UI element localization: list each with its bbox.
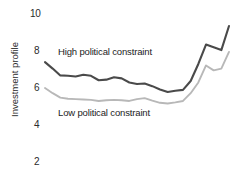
- investment-profile-line-chart: Investment profile 10 8 6 4 2 High polit…: [0, 0, 239, 175]
- annotation-low-political-constraint: Low political constraint: [58, 107, 150, 118]
- annotation-high-political-constraint: High political constraint: [58, 46, 152, 57]
- series-line-high-political-constraint: [45, 26, 229, 92]
- series-line-low-political-constraint: [45, 52, 229, 104]
- plot-area: [0, 0, 239, 175]
